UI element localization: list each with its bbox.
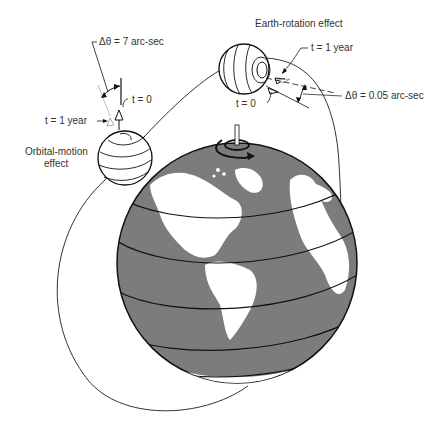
right-t0-label: t = 0 [236, 98, 256, 109]
right-t1-label: t = 1 year [311, 42, 354, 53]
right-delta-label: Δθ = 0.05 arc-sec [345, 90, 424, 101]
orbital-motion-title-line1: Orbital-motion [25, 146, 88, 157]
diagram-svg: Earth-rotation effect Orbital-motion eff… [0, 0, 443, 431]
axis-pin [235, 125, 239, 145]
earth-globe [115, 125, 365, 400]
earth-rotation-title: Earth-rotation effect [255, 18, 343, 29]
left-sphere [92, 42, 152, 185]
diagram: Earth-rotation effect Orbital-motion eff… [0, 0, 443, 431]
left-delta-label: Δθ = 7 arc-sec [99, 36, 164, 47]
left-t0-label: t = 0 [132, 94, 152, 105]
left-t1-label: t = 1 year [45, 115, 88, 126]
orbital-motion-title-line2: effect [44, 158, 68, 169]
